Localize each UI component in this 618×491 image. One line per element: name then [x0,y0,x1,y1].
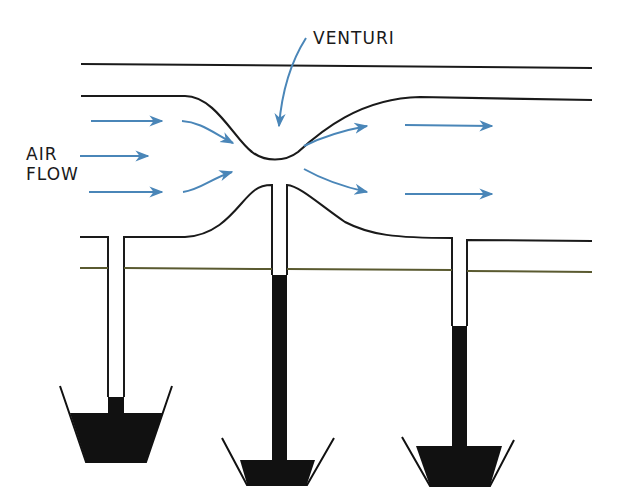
airflow-label-line1: AIR [26,144,57,164]
arrow-icon [183,172,232,192]
airflow-label-line2: FLOW [26,164,79,184]
venturi-lower-wall-right [467,240,592,326]
ground-line-mid1 [124,268,272,269]
venturi-diagram: VENTURI AIR FLOW [0,0,618,491]
outer-top-wall [81,64,592,68]
arrow-icon [304,169,367,192]
arrow-icon [405,125,492,126]
right-tube-liquid [452,326,467,446]
diagram-canvas [0,0,618,491]
airflow-arrows [80,38,492,194]
arrow-icon [304,126,367,146]
ground-line-right [467,271,592,272]
venturi-pointer-arrow-icon [279,38,306,126]
venturi-lower-wall-hump-right [287,185,452,326]
venturi-lower-wall-hump-left [124,185,272,397]
venturi-upper-wall [81,96,592,160]
arrow-icon [182,121,233,143]
right-container-liquid [416,446,502,486]
venturi-lower-wall-left [80,237,108,397]
center-container-liquid [240,460,315,484]
center-tube-liquid [272,275,287,460]
ground-line-mid2 [287,269,452,270]
venturi-label: VENTURI [313,28,395,48]
